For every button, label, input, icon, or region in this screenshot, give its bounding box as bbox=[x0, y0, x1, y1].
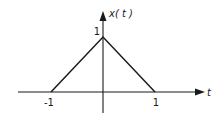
x-tick-label: 1 bbox=[153, 97, 159, 108]
triangle-pulse-plot: x( t ) t -111 bbox=[0, 0, 219, 113]
y-axis-arrow bbox=[100, 11, 107, 21]
x-axis-arrow bbox=[195, 89, 205, 96]
x-tick-label: -1 bbox=[44, 97, 54, 108]
y-tick-label: 1 bbox=[94, 26, 100, 37]
y-axis-label: x( t ) bbox=[108, 8, 133, 19]
labels-group: x( t ) t -111 bbox=[44, 8, 212, 108]
x-axis-label: t bbox=[207, 87, 212, 98]
